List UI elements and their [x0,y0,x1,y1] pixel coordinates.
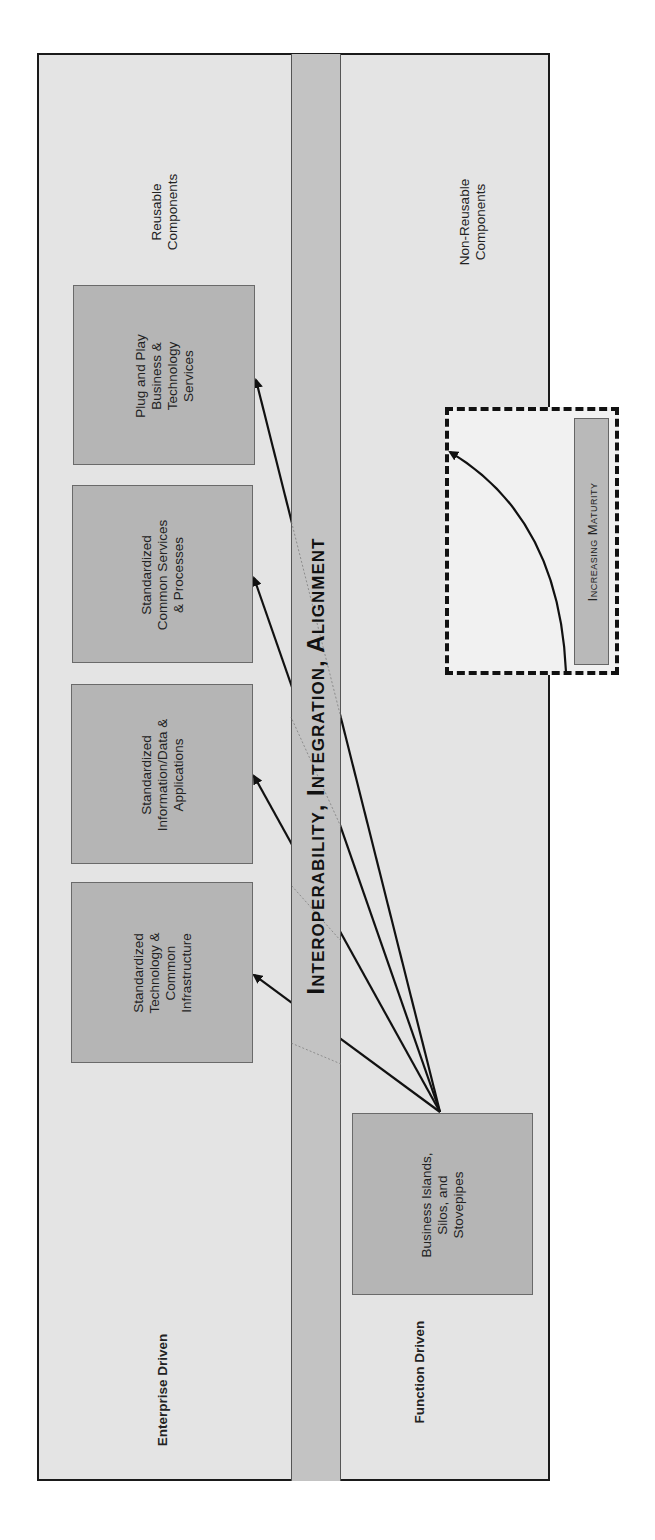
legend-curved-arrow-icon [0,0,655,1540]
legend-label: Increasing Maturity [585,483,600,602]
legend-increasing-maturity: Increasing Maturity [574,418,609,665]
